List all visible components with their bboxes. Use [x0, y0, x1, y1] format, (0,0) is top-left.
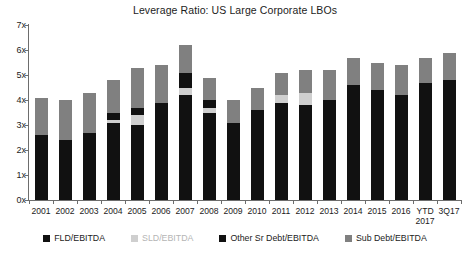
bar-stack[interactable] [227, 100, 240, 200]
x-axis-tick-mark [53, 200, 54, 204]
x-axis-tick-mark [461, 200, 462, 204]
bar-stack[interactable] [251, 88, 264, 201]
y-axis-tick-label: 7x [4, 20, 26, 30]
bar-segment [35, 98, 48, 136]
y-axis-tick-label: 5x [4, 70, 26, 80]
bar-stack[interactable] [275, 73, 288, 201]
bar-segment [203, 78, 216, 101]
bar-stack[interactable] [107, 80, 120, 200]
y-axis-tick-mark [25, 125, 28, 126]
legend-item[interactable]: SLD/EBITDA [131, 233, 193, 243]
y-axis-tick-mark [25, 150, 28, 151]
x-axis-tick-mark [317, 200, 318, 204]
bar-segment [83, 133, 96, 201]
bar-segment [347, 58, 360, 86]
x-axis-tick-mark [413, 200, 414, 204]
legend-swatch-icon [345, 235, 352, 242]
bar-stack[interactable] [323, 70, 336, 200]
bar-segment [443, 53, 456, 81]
bar-segment [419, 90, 432, 200]
y-axis-tick-mark [25, 100, 28, 101]
y-axis-tick-label: 3x [4, 120, 26, 130]
y-axis-tick-label: 4x [4, 95, 26, 105]
bar-segment [155, 103, 168, 111]
y-axis-tick-label: 2x [4, 145, 26, 155]
bar-stack[interactable] [443, 53, 456, 201]
bar-stack[interactable] [131, 68, 144, 201]
bar-stack[interactable] [371, 63, 384, 201]
bar-segment [131, 68, 144, 108]
bar-segment [155, 110, 168, 200]
bar-segment [179, 95, 192, 200]
legend-item[interactable]: Sub Debt/EBITDA [345, 233, 427, 243]
bar-segment [179, 73, 192, 88]
bar-segment [371, 90, 384, 98]
bar-segment [395, 95, 408, 103]
x-axis-tick-mark [77, 200, 78, 204]
bar-segment [419, 83, 432, 91]
bar-stack[interactable] [179, 45, 192, 200]
y-axis-tick-label: 6x [4, 45, 26, 55]
x-axis-tick-mark [125, 200, 126, 204]
y-axis-tick-mark [25, 200, 28, 201]
bar-segment [131, 115, 144, 125]
bar-segment [131, 125, 144, 200]
bar-stack[interactable] [59, 100, 72, 200]
y-axis-tick-label: 1x [4, 170, 26, 180]
legend-swatch-icon [131, 235, 138, 242]
bar-segment [131, 108, 144, 116]
bar-stack[interactable] [155, 65, 168, 200]
x-axis-tick-mark [197, 200, 198, 204]
bar-segment [59, 100, 72, 140]
bar-stack[interactable] [35, 98, 48, 201]
bar-stack[interactable] [419, 58, 432, 201]
bar-segment [179, 45, 192, 73]
x-axis-tick-mark [437, 200, 438, 204]
bar-segment [59, 140, 72, 200]
y-axis-tick-mark [25, 75, 28, 76]
bar-segment [35, 135, 48, 200]
bar-segment [323, 70, 336, 100]
legend-label: Other Sr Debt/EBITDA [230, 233, 318, 243]
x-axis-tick-mark [149, 200, 150, 204]
x-axis-tick-mark [341, 200, 342, 204]
bar-stack[interactable] [83, 93, 96, 201]
bar-stack[interactable] [395, 65, 408, 200]
bar-segment [83, 93, 96, 133]
chart-figure: Leverage Ratio: US Large Corporate LBOs … [0, 0, 470, 259]
bar-segment [251, 110, 264, 200]
legend-label: FLD/EBITDA [54, 233, 105, 243]
bar-stack[interactable] [299, 70, 312, 200]
legend-label: Sub Debt/EBITDA [356, 233, 427, 243]
bar-segment [371, 63, 384, 91]
x-axis-tick-mark [389, 200, 390, 204]
bar-segment [227, 100, 240, 123]
bar-stack[interactable] [203, 78, 216, 201]
y-axis-tick-mark [25, 25, 28, 26]
legend-swatch-icon [43, 235, 50, 242]
chart-title: Leverage Ratio: US Large Corporate LBOs [0, 4, 470, 16]
bar-segment [299, 70, 312, 93]
bar-segment [443, 88, 456, 201]
y-axis-tick-mark [25, 175, 28, 176]
bar-segment [395, 65, 408, 95]
bar-stack[interactable] [347, 58, 360, 201]
bar-segment [443, 80, 456, 88]
legend-label: SLD/EBITDA [142, 233, 193, 243]
legend-item[interactable]: FLD/EBITDA [43, 233, 105, 243]
x-axis-tick-mark [365, 200, 366, 204]
legend-swatch-icon [219, 235, 226, 242]
chart-legend: FLD/EBITDASLD/EBITDAOther Sr Debt/EBITDA… [0, 233, 470, 243]
x-axis-tick-mark [101, 200, 102, 204]
x-axis-tick-mark [293, 200, 294, 204]
bar-segment [251, 88, 264, 111]
y-axis-tick-labels: 0x1x2x3x4x5x6x7x [0, 0, 26, 259]
x-axis-tick-mark [269, 200, 270, 204]
bar-segment [275, 103, 288, 201]
plot-area [29, 25, 461, 200]
legend-item[interactable]: Other Sr Debt/EBITDA [219, 233, 318, 243]
y-axis-tick-label: 0x [4, 195, 26, 205]
bar-segment [323, 100, 336, 200]
bar-segment [203, 113, 216, 201]
bar-segment [395, 103, 408, 201]
